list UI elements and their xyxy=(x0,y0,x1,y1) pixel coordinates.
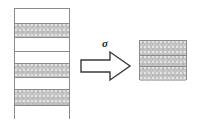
result-band-1 xyxy=(140,55,186,66)
stack-band-1 xyxy=(15,23,69,37)
arrow-outline xyxy=(81,52,130,80)
stack-band-7 xyxy=(15,105,69,120)
stack-band-2 xyxy=(15,37,69,51)
stack-band-4 xyxy=(15,63,69,77)
result-band-0 xyxy=(140,41,186,55)
figure-canvas: σ xyxy=(0,0,199,126)
block-arrow-icon xyxy=(80,50,132,82)
sigma-symbol: σ xyxy=(92,36,118,51)
stack-band-5 xyxy=(15,77,69,89)
stack-band-3 xyxy=(15,51,69,63)
homogenized-block xyxy=(139,40,187,80)
stack-band-0 xyxy=(15,9,69,23)
result-band-2 xyxy=(140,66,186,81)
stack-band-6 xyxy=(15,89,69,105)
transformation-arrow-group: σ xyxy=(80,36,132,82)
layered-medium-stack xyxy=(14,8,70,119)
